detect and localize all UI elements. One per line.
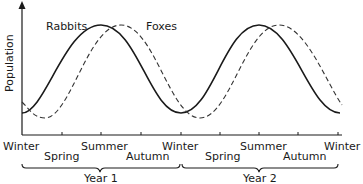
year-2-brace xyxy=(182,164,338,172)
year-1-brace xyxy=(22,164,180,172)
y-axis-arrow-icon xyxy=(19,1,26,9)
foxes-curve xyxy=(22,25,342,118)
x-label-winter-3: Winter xyxy=(324,140,361,153)
rabbits-curve xyxy=(22,25,340,113)
x-label-summer-2: Summer xyxy=(240,140,287,153)
x-label-spring-2: Spring xyxy=(205,150,241,163)
x-label-winter-1: Winter xyxy=(3,140,40,153)
x-label-autumn-1: Autumn xyxy=(126,150,169,163)
year-1-label: Year 1 xyxy=(83,172,118,184)
x-label-autumn-2: Autumn xyxy=(283,150,326,163)
foxes-label: Foxes xyxy=(146,20,177,33)
year-2-label: Year 2 xyxy=(242,172,277,184)
x-label-summer-1: Summer xyxy=(81,140,128,153)
y-axis-label: Population xyxy=(3,34,16,92)
predator-prey-chart: Rabbits Foxes Population Winter Summer W… xyxy=(0,0,363,184)
x-label-spring-1: Spring xyxy=(44,150,80,163)
rabbits-label: Rabbits xyxy=(46,20,87,33)
